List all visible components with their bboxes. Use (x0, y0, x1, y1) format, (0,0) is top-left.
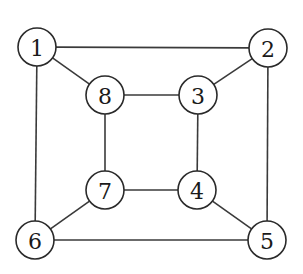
node-label: 6 (28, 229, 42, 254)
node-label: 3 (191, 84, 205, 109)
node-7: 7 (86, 171, 124, 209)
node-label: 7 (98, 179, 112, 204)
edges-layer (35, 47, 268, 240)
edge-3-4 (197, 114, 198, 171)
edge-1-2 (56, 47, 249, 48)
node-2: 2 (249, 29, 287, 67)
node-3: 3 (179, 76, 217, 114)
node-1: 1 (18, 28, 56, 66)
edge-2-3 (214, 59, 252, 85)
graph-diagram: 12345678 (0, 0, 303, 274)
node-5: 5 (248, 221, 286, 259)
node-label: 1 (30, 36, 44, 61)
node-label: 2 (261, 37, 275, 62)
node-6: 6 (16, 221, 54, 259)
node-4: 4 (178, 171, 216, 209)
edge-7-6 (50, 201, 89, 229)
node-8: 8 (86, 76, 124, 114)
edge-2-5 (267, 67, 268, 221)
node-label: 5 (260, 229, 274, 254)
edge-1-8 (53, 58, 90, 84)
edge-4-5 (212, 201, 251, 229)
edge-1-6 (35, 66, 37, 221)
node-label: 8 (98, 84, 112, 109)
node-label: 4 (190, 179, 204, 204)
